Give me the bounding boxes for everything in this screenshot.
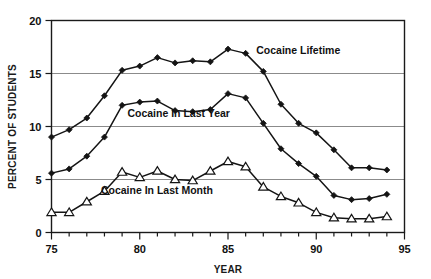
- y-tick-label-15: 15: [29, 68, 41, 80]
- line-chart: 7580859095 05101520 Cocaine LifetimeCoca…: [0, 0, 431, 279]
- y-tick-label-10: 10: [29, 121, 41, 133]
- x-tick-label-85: 85: [222, 243, 234, 255]
- x-tick-label-80: 80: [134, 243, 146, 255]
- y-tick-label-5: 5: [35, 174, 41, 186]
- annotation-label-0: Cocaine Lifetime: [256, 44, 340, 56]
- y-tick-label-20: 20: [29, 15, 41, 27]
- chart-figure: 7580859095 05101520 Cocaine LifetimeCoca…: [0, 0, 431, 279]
- x-tick-label-75: 75: [45, 243, 57, 255]
- x-tick-label-95: 95: [398, 243, 410, 255]
- annotation-label-1: Cocaine In Last Year: [127, 107, 230, 119]
- x-tick-label-90: 90: [310, 243, 322, 255]
- annotation-label-2: Cocaine In Last Month: [101, 184, 213, 196]
- x-axis-title: YEAR: [214, 264, 243, 275]
- chart-background: [0, 0, 431, 279]
- y-tick-label-0: 0: [35, 227, 41, 239]
- y-axis-title: PERCENT OF STUDENTS: [7, 64, 18, 189]
